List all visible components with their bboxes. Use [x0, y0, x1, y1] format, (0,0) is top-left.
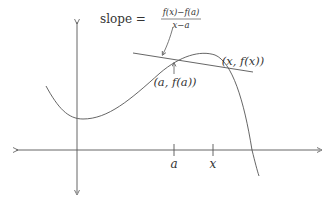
function-curve [46, 53, 259, 176]
tick-label-a: a [170, 157, 177, 171]
slope-label-denominator: x−a [173, 20, 190, 30]
point-label-a: (a, f(a)) [153, 75, 196, 89]
tick-label-x: x [210, 157, 217, 171]
slope-pointer-arrow [163, 27, 173, 54]
point-label-x: (x, f(x)) [222, 54, 265, 68]
slope-label-numerator: f(x)−f(a) [162, 7, 200, 17]
secant-diagram: slope = f(x)−f(a) x−a (a, f(a)) (x, f(x)… [0, 0, 334, 201]
slope-label-prefix: slope = [100, 12, 146, 26]
